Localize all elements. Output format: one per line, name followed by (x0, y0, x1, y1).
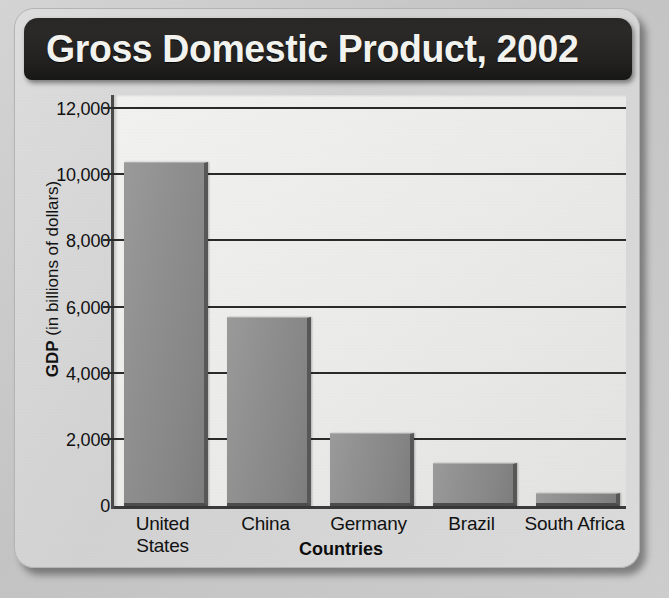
x-axis-tick-label-line: United (111, 513, 214, 535)
y-axis-tick (103, 306, 114, 308)
plot-area (111, 95, 626, 509)
x-axis-title: Countries (111, 539, 571, 560)
y-axis-tick-label: 4,000 (15, 363, 110, 384)
y-axis-tick-label: 12,000 (15, 99, 110, 120)
chart-card: Gross Domestic Product, 2002 GDP (in bil… (14, 8, 640, 568)
x-axis-tick-label-line: Brazil (420, 513, 523, 535)
x-axis-tick-label: China (214, 513, 317, 535)
y-axis-tick-labels: 02,0004,0006,0008,00010,00012,000 (15, 81, 110, 521)
bar-germany (330, 433, 414, 506)
chart-page: Gross Domestic Product, 2002 GDP (in bil… (0, 0, 669, 598)
chart-plot-region: GDP (in billions of dollars) 02,0004,000… (15, 81, 641, 569)
y-axis-tick (103, 438, 114, 440)
y-axis-tick-label: 0 (15, 496, 110, 517)
y-axis-tick-label: 6,000 (15, 297, 110, 318)
x-axis-tick-label-line: Germany (317, 513, 420, 535)
y-axis-tick (103, 372, 114, 374)
axis-baseline (114, 506, 626, 509)
y-axis-tick (103, 107, 114, 109)
chart-title-bar: Gross Domestic Product, 2002 (24, 18, 632, 80)
bar-south-africa (536, 493, 620, 506)
bar-united-states (124, 162, 208, 506)
x-axis-tick-label-line: China (214, 513, 317, 535)
y-axis-tick-label: 8,000 (15, 231, 110, 252)
bar-brazil (433, 463, 517, 506)
page-title: Gross Domestic Product, 2002 (46, 27, 578, 71)
x-axis-tick-label: Brazil (420, 513, 523, 535)
x-axis-tick-label: South Africa (523, 513, 626, 535)
y-axis-tick-label: 10,000 (15, 165, 110, 186)
x-axis-tick-label: Germany (317, 513, 420, 535)
y-axis-tick (103, 239, 114, 241)
y-axis-tick-label: 2,000 (15, 429, 110, 450)
bar-china (227, 317, 311, 506)
y-axis-tick (103, 173, 114, 175)
gridline (114, 107, 626, 109)
x-axis-tick-label-line: South Africa (523, 513, 626, 535)
